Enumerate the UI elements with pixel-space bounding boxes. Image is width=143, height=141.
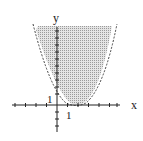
x-tick-label: 1: [66, 109, 72, 121]
y-tick-label: 1: [47, 93, 53, 105]
y-axis-label: y: [53, 11, 59, 25]
x-axis-label: x: [131, 98, 137, 112]
graph: x y 1 1: [0, 0, 143, 141]
